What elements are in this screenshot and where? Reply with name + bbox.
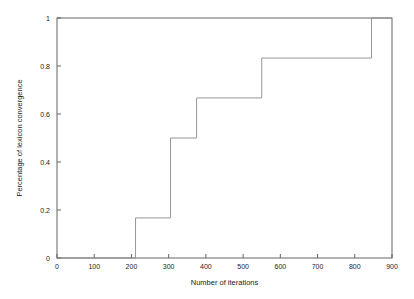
x-tick-label: 300	[163, 263, 175, 270]
x-tick-label: 600	[274, 263, 286, 270]
step-chart: 00.20.40.60.81 0100200300400500600700800…	[0, 0, 414, 299]
y-tick-label: 0.2	[40, 207, 50, 214]
x-tick-label: 900	[386, 263, 398, 270]
x-tick-label: 400	[200, 263, 212, 270]
x-tick-label: 500	[237, 263, 249, 270]
x-tick-label: 0	[55, 263, 59, 270]
x-tick-label: 700	[312, 263, 324, 270]
y-tick-label: 0.4	[40, 159, 50, 166]
y-tick-label: 0.8	[40, 63, 50, 70]
x-tick-label: 800	[349, 263, 361, 270]
chart-background	[0, 0, 414, 299]
y-tick-label: 1	[46, 15, 50, 22]
chart-figure: 00.20.40.60.81 0100200300400500600700800…	[0, 0, 414, 299]
y-tick-label: 0.6	[40, 111, 50, 118]
y-tick-label: 0	[46, 255, 50, 262]
y-axis-title: Percentage of lexicon convergence	[15, 79, 24, 196]
x-tick-label: 200	[126, 263, 138, 270]
x-tick-label: 100	[88, 263, 100, 270]
x-axis-title: Number of iterations	[191, 278, 259, 287]
